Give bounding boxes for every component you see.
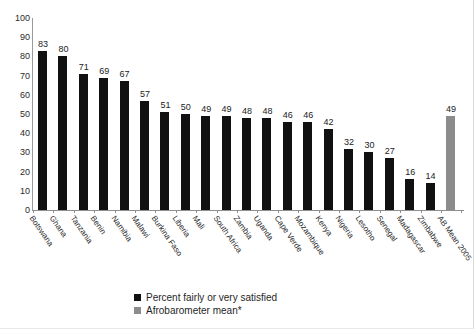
- y-axis-tick-labels: 1009080706050403020100: [0, 0, 30, 225]
- bar-slot: 51: [155, 18, 175, 210]
- x-tick-mark: [217, 210, 218, 213]
- category-label: Nigeria: [334, 214, 356, 240]
- category-label: AB Mean 2005: [436, 214, 474, 263]
- bar: [160, 112, 169, 210]
- x-tick-mark: [115, 210, 116, 213]
- y-tick-label-0: 0: [4, 206, 30, 215]
- category-label: Mali: [191, 214, 207, 231]
- bar-chart-plot-area: 1009080706050403020100 83807169675751504…: [0, 0, 474, 225]
- x-tick-mark: [237, 210, 238, 213]
- bar: [405, 179, 414, 210]
- bar: [283, 122, 292, 210]
- y-tick-label-20: 20: [4, 168, 30, 177]
- bar-slot: 27: [380, 18, 400, 210]
- legend-label-satisfied: Percent fairly or very satisfied: [146, 292, 277, 303]
- bar: [99, 78, 108, 210]
- x-tick-mark: [421, 210, 422, 213]
- category-label: Benin: [89, 214, 108, 236]
- x-tick-mark: [461, 210, 462, 213]
- category-label: Liberia: [170, 214, 191, 239]
- chart-legend: Percent fairly or very satisfied Afrobar…: [134, 291, 374, 317]
- bar: [364, 152, 373, 210]
- x-tick-mark: [380, 210, 381, 213]
- bar: [344, 149, 353, 210]
- x-tick-mark: [278, 210, 279, 213]
- x-tick-mark: [155, 210, 156, 213]
- bar-slot: 50: [176, 18, 196, 210]
- category-label: Ghana: [48, 214, 69, 239]
- x-tick-mark: [176, 210, 177, 213]
- bar-slot: 71: [74, 18, 94, 210]
- bar: [120, 81, 129, 210]
- y-tick-label-70: 70: [4, 72, 30, 81]
- bar-slot: 14: [421, 18, 441, 210]
- bar-slot: 30: [359, 18, 379, 210]
- bar-slot: 46: [298, 18, 318, 210]
- bar: [426, 183, 435, 210]
- bar: [181, 114, 190, 210]
- bar: [140, 101, 149, 210]
- bar: [201, 116, 210, 210]
- bar: [222, 116, 231, 210]
- y-tick-label-100: 100: [4, 14, 30, 23]
- bar: [262, 118, 271, 210]
- y-tick-label-60: 60: [4, 91, 30, 100]
- x-tick-mark: [135, 210, 136, 213]
- y-tick-label-10: 10: [4, 187, 30, 196]
- bar: [242, 118, 251, 210]
- legend-item-satisfied: Percent fairly or very satisfied: [134, 291, 374, 303]
- legend-item-mean: Afrobarometer mean*: [134, 304, 374, 316]
- bar: [324, 129, 333, 210]
- y-tick-label-30: 30: [4, 148, 30, 157]
- bar-slot: 32: [339, 18, 359, 210]
- bar-series: 8380716967575150494948484646423230271614…: [33, 18, 464, 210]
- legend-label-mean: Afrobarometer mean*: [146, 305, 242, 316]
- x-tick-mark: [319, 210, 320, 213]
- legend-swatch-icon-satisfied: [134, 294, 141, 301]
- bar: [58, 56, 67, 210]
- x-tick-mark: [359, 210, 360, 213]
- x-tick-mark: [94, 210, 95, 213]
- x-tick-mark: [257, 210, 258, 213]
- category-label: Kenya: [313, 214, 333, 238]
- x-tick-mark: [196, 210, 197, 213]
- y-tick-label-40: 40: [4, 129, 30, 138]
- x-tick-mark: [298, 210, 299, 213]
- x-tick-mark: [53, 210, 54, 213]
- y-tick-label-80: 80: [4, 52, 30, 61]
- bar: [385, 158, 394, 210]
- bar: [38, 51, 47, 210]
- bar-slot: 49: [196, 18, 216, 210]
- x-tick-mark: [400, 210, 401, 213]
- x-tick-mark: [339, 210, 340, 213]
- bar-slot: 67: [115, 18, 135, 210]
- bar-slot: 69: [94, 18, 114, 210]
- bar-slot: 16: [400, 18, 420, 210]
- x-tick-mark: [33, 210, 34, 213]
- bar: [446, 116, 455, 210]
- x-axis-category-labels: BotswanaGhanaTanzaniaBeninNamibiaMalawiB…: [33, 214, 474, 284]
- x-tick-mark: [441, 210, 442, 213]
- bar-slot: 42: [319, 18, 339, 210]
- y-tick-label-50: 50: [4, 110, 30, 119]
- y-tick-label-90: 90: [4, 33, 30, 42]
- bar-slot: 49: [441, 18, 461, 210]
- bar-slot: 57: [135, 18, 155, 210]
- bar-slot: 80: [53, 18, 73, 210]
- bar-value-label: 49: [437, 105, 465, 114]
- bar: [79, 74, 88, 210]
- legend-swatch-icon-mean: [134, 307, 141, 314]
- bar: [303, 122, 312, 210]
- x-tick-mark: [74, 210, 75, 213]
